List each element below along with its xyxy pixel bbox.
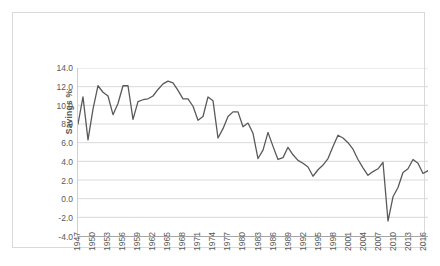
- x-axis-tick-label: 1989: [282, 239, 294, 251]
- x-axis-tick-label: 1953: [101, 239, 113, 251]
- gridlines: [78, 68, 428, 217]
- y-axis-tick-label: -4.0: [39, 232, 73, 242]
- plot-area: [77, 68, 428, 237]
- x-axis-tick-label: 1998: [327, 239, 339, 251]
- x-axis-tick-label: 2004: [357, 239, 369, 251]
- x-axis-tick-label: 1959: [131, 239, 143, 251]
- y-axis-tick-labels: 14.012.010.08.06.04.02.00.0-2.0-4.0: [35, 68, 73, 237]
- x-axis-tick-label: 1956: [116, 239, 128, 251]
- x-axis-tick-label: 1995: [312, 239, 324, 251]
- x-axis-tick-label: 1968: [176, 239, 188, 251]
- x-axis-tick-label: 2013: [402, 239, 414, 251]
- x-axis-tick-label: 2016: [417, 239, 429, 251]
- y-axis-tick-label: 4.0: [39, 157, 73, 167]
- x-axis-tick-label: 2010: [387, 239, 399, 251]
- x-axis-tick-labels: 1947195019531956195919621965196819711974…: [77, 239, 428, 266]
- chart-container: Savings % 14.012.010.08.06.04.02.00.0-2.…: [12, 12, 425, 248]
- line-series-svg: [78, 68, 428, 236]
- x-axis-tick-label: 1962: [146, 239, 158, 251]
- x-axis-tick-label: 1947: [71, 239, 83, 251]
- x-axis-tick-label: 1950: [86, 239, 98, 251]
- x-axis-tick-label: 1980: [236, 239, 248, 251]
- y-axis-tick-label: 6.0: [39, 138, 73, 148]
- x-axis-tick-label: 1971: [191, 239, 203, 251]
- x-axis-tick-label: 1986: [267, 239, 279, 251]
- y-axis-tick-label: -2.0: [39, 213, 73, 223]
- y-axis-tick-label: 10.0: [39, 101, 73, 111]
- x-axis-tick-label: 2007: [372, 239, 384, 251]
- x-axis-tick-label: 2001: [342, 239, 354, 251]
- x-axis-tick-label: 1992: [297, 239, 309, 251]
- y-axis-tick-label: 14.0: [39, 63, 73, 73]
- y-axis-tick-label: 0.0: [39, 194, 73, 204]
- x-axis-tick-label: 1983: [252, 239, 264, 251]
- x-axis-tick-label: 1965: [161, 239, 173, 251]
- savings-rate-line: [78, 81, 428, 221]
- x-axis-tick-label: 1974: [206, 239, 218, 251]
- y-axis-tick-label: 2.0: [39, 176, 73, 186]
- x-axis-tick-label: 1977: [221, 239, 233, 251]
- y-axis-tick-label: 12.0: [39, 82, 73, 92]
- y-axis-tick-label: 8.0: [39, 119, 73, 129]
